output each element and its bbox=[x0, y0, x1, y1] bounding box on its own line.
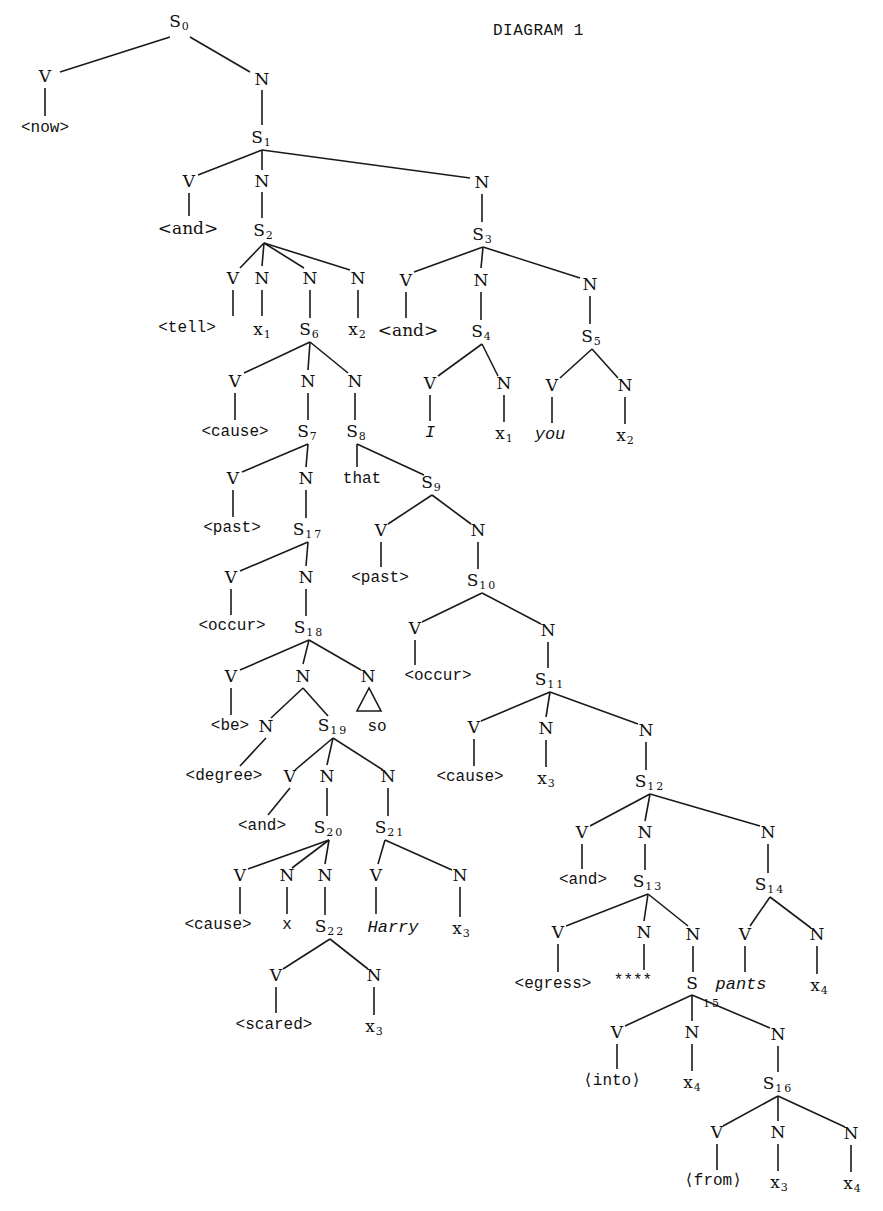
node-i: I bbox=[425, 424, 435, 441]
node-label: V bbox=[227, 468, 239, 488]
node-n21: N bbox=[453, 867, 468, 884]
node-v5: V bbox=[546, 377, 558, 394]
triangle-abbreviation-icon bbox=[357, 688, 381, 711]
node-subscript: 6 bbox=[312, 328, 321, 341]
node-label: x bbox=[365, 1016, 375, 1036]
node-label: N bbox=[318, 865, 333, 885]
node-label: N bbox=[381, 766, 396, 786]
branch-line bbox=[385, 840, 452, 870]
branch-line bbox=[268, 788, 290, 815]
node-label: Harry bbox=[367, 918, 418, 937]
node-n11a: N bbox=[539, 720, 554, 737]
node-v11: V bbox=[468, 719, 480, 736]
node-subscript: 2 bbox=[627, 434, 636, 447]
node-label: <past> bbox=[351, 569, 409, 587]
branch-line bbox=[262, 150, 470, 178]
node-label: x bbox=[810, 975, 820, 995]
branch-line bbox=[262, 243, 264, 266]
branch-line bbox=[438, 344, 482, 376]
node-label: S bbox=[471, 321, 483, 341]
node-label: x bbox=[282, 916, 292, 934]
node-label: N bbox=[303, 268, 318, 288]
node-s8: S8 bbox=[346, 423, 368, 442]
node-x1a: x1 bbox=[253, 321, 273, 340]
node-v1: V bbox=[183, 173, 195, 190]
branch-line bbox=[306, 542, 308, 566]
branch-line bbox=[198, 150, 262, 175]
node-v2: V bbox=[227, 270, 239, 287]
node-label: S bbox=[253, 220, 265, 240]
node-n9: N bbox=[471, 522, 486, 539]
node-n10: N bbox=[541, 622, 556, 639]
node-v20: V bbox=[234, 867, 246, 884]
branch-line bbox=[264, 243, 350, 270]
node-label: S bbox=[755, 874, 767, 894]
branch-line bbox=[330, 939, 368, 969]
node-n2a: N bbox=[255, 270, 270, 287]
branch-lines bbox=[45, 37, 851, 1172]
branch-line bbox=[550, 692, 638, 724]
node-subscript: 18 bbox=[306, 626, 324, 639]
node-subscript: 3 bbox=[463, 927, 472, 940]
node-label: x bbox=[253, 319, 263, 339]
node-label: N bbox=[299, 468, 314, 488]
node-subscript: 7 bbox=[310, 430, 319, 443]
branch-line bbox=[770, 897, 811, 928]
node-label: S bbox=[535, 669, 547, 689]
node-label: V bbox=[227, 268, 239, 288]
node-occur1: <occur> bbox=[198, 618, 265, 634]
node-v15: V bbox=[611, 1024, 623, 1041]
branch-line bbox=[645, 794, 650, 821]
node-n19a: N bbox=[320, 768, 335, 785]
node-label: N bbox=[761, 822, 776, 842]
node-so: so bbox=[367, 719, 386, 735]
branch-line bbox=[271, 688, 303, 718]
node-s6: S6 bbox=[299, 321, 321, 340]
node-subscript: 22 bbox=[327, 925, 345, 938]
branch-line bbox=[283, 939, 330, 969]
node-x3b: x3 bbox=[452, 920, 472, 939]
node-s22: S22 bbox=[315, 918, 346, 937]
node-degree: <degree> bbox=[186, 768, 263, 784]
node-n13a: N bbox=[637, 924, 652, 941]
node-subscript: 3 bbox=[376, 1025, 385, 1038]
node-label: V bbox=[576, 822, 588, 842]
node-you: you bbox=[535, 426, 566, 443]
node-subscript: 20 bbox=[326, 826, 344, 839]
branch-line bbox=[592, 349, 618, 378]
node-n18a: N bbox=[296, 668, 311, 685]
node-s2: S2 bbox=[253, 222, 275, 241]
node-label: <past> bbox=[203, 519, 261, 537]
node-label: <degree> bbox=[186, 767, 263, 785]
node-label: V bbox=[284, 766, 296, 786]
node-subscript: 2 bbox=[266, 229, 275, 242]
node-cause2: <cause> bbox=[436, 769, 503, 785]
node-subscript: 1 bbox=[506, 432, 515, 445]
node-s20: S20 bbox=[314, 819, 345, 838]
node-label: N bbox=[637, 922, 652, 942]
node-label: <occur> bbox=[404, 667, 471, 685]
node-label: S bbox=[293, 519, 305, 539]
node-label: S bbox=[294, 617, 306, 637]
node-label: S bbox=[581, 326, 593, 346]
node-n6b: N bbox=[348, 373, 363, 390]
node-label: V bbox=[711, 1122, 723, 1142]
node-label: <and> bbox=[238, 817, 286, 835]
node-x4b: x4 bbox=[683, 1074, 703, 1093]
node-subscript: 4 bbox=[821, 984, 830, 997]
branch-line bbox=[625, 995, 692, 1026]
node-subscript: 13 bbox=[645, 880, 663, 893]
branch-line bbox=[303, 640, 309, 664]
branch-line bbox=[303, 688, 328, 716]
branch-line bbox=[482, 344, 498, 376]
node-label: <and> bbox=[158, 218, 218, 238]
node-s9: S9 bbox=[421, 474, 443, 493]
node-subscript: 4 bbox=[694, 1081, 703, 1094]
node-label: S bbox=[297, 421, 309, 441]
node-label: S bbox=[472, 224, 484, 244]
node-label: <be> bbox=[211, 717, 249, 735]
node-label: N bbox=[348, 371, 363, 391]
node-cause3: <cause> bbox=[184, 917, 251, 933]
node-label: N bbox=[685, 1022, 700, 1042]
node-label: N bbox=[301, 371, 316, 391]
